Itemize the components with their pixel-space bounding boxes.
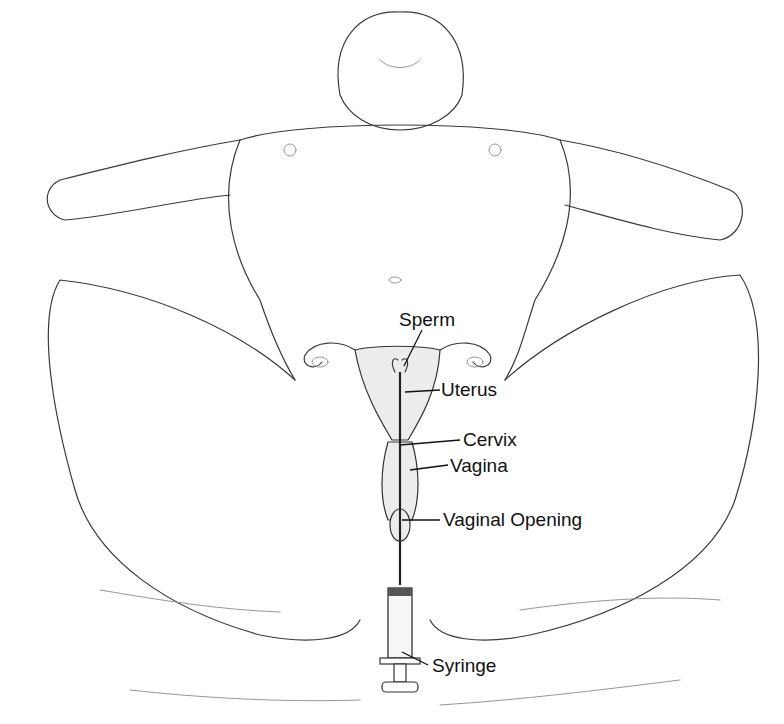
arms-outline [47, 140, 742, 240]
label-cervix: Cervix [463, 430, 517, 449]
label-uterus: Uterus [441, 380, 497, 399]
anatomical-illustration [0, 0, 784, 724]
label-syringe: Syringe [432, 656, 496, 675]
label-vaginal-opening: Vaginal Opening [443, 510, 582, 529]
head-outline [338, 12, 463, 130]
label-sperm: Sperm [399, 310, 455, 329]
label-vagina: Vagina [450, 456, 508, 475]
torso-outline [229, 125, 571, 380]
